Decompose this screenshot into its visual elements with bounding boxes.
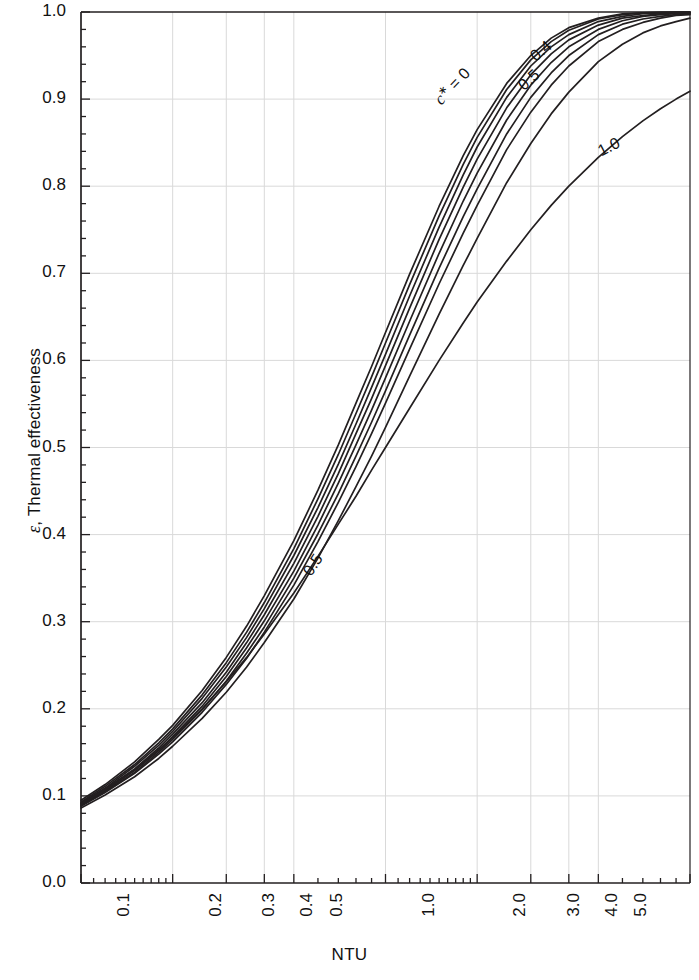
- x-tick-label: 0.5: [326, 893, 346, 917]
- y-tick-label: 1.0: [8, 1, 66, 21]
- chart-root: ε, Thermal effectiveness NTU 0.00.10.20.…: [0, 0, 699, 980]
- x-tick-label: 3.0: [563, 893, 583, 917]
- x-axis-label: NTU: [0, 945, 699, 965]
- chart-svg: [0, 0, 699, 980]
- x-tick-label: 0.3: [259, 893, 279, 917]
- x-tick-label: 2.0: [510, 893, 530, 917]
- y-tick-label: 0.8: [8, 175, 66, 195]
- y-tick-label: 0.3: [8, 611, 66, 631]
- y-tick-label: 0.2: [8, 698, 66, 718]
- y-tick-label: 0.9: [8, 88, 66, 108]
- x-tick-label: 0.1: [114, 893, 134, 917]
- y-tick-label: 0.0: [8, 872, 66, 892]
- y-tick-label: 0.6: [8, 349, 66, 369]
- x-tick-label: 0.2: [205, 893, 225, 917]
- x-tick-label: 0.4: [297, 893, 317, 917]
- y-tick-label: 0.7: [8, 262, 66, 282]
- x-tick-label: 5.0: [631, 893, 651, 917]
- x-tick-label: 4.0: [601, 893, 621, 917]
- x-tick-label: 1.0: [418, 893, 438, 917]
- y-tick-label: 0.4: [8, 524, 66, 544]
- y-tick-label: 0.5: [8, 437, 66, 457]
- y-tick-label: 0.1: [8, 785, 66, 805]
